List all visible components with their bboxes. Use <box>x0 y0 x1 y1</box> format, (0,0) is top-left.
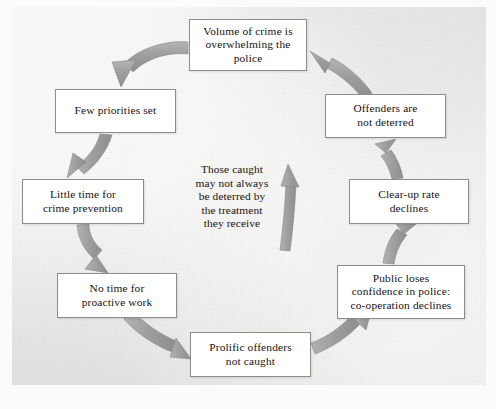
node-prolific-offenders-not-caught[interactable]: Prolific offenders not caught <box>190 332 311 377</box>
node-label: Little time for crime prevention <box>43 188 123 215</box>
node-few-priorities-set[interactable]: Few priorities set <box>55 89 176 133</box>
node-label: Offenders are not deterred <box>353 102 417 129</box>
arrow-little-time-to-no-time <box>77 224 108 273</box>
node-public-loses-confidence[interactable]: Public loses confidence in police: co-op… <box>337 265 465 319</box>
arrow-offenders-to-volume <box>310 51 372 99</box>
node-no-time-for-proactive-work[interactable]: No time for proactive work <box>57 273 177 318</box>
center-note-text: Those caught may not always be deterred … <box>184 163 280 231</box>
node-offenders-are-not-deterred[interactable]: Offenders are not deterred <box>325 94 446 138</box>
node-label: Prolific offenders not caught <box>209 341 292 368</box>
arrow-public-loses-to-clear-up <box>383 219 416 264</box>
figure-caption <box>14 392 434 407</box>
arrow-center-note-up <box>280 164 299 251</box>
node-label: Volume of crime is overwhelming the poli… <box>203 25 293 66</box>
diagram-page: Volume of crime is overwhelming the poli… <box>0 0 496 409</box>
node-clear-up-rate-declines[interactable]: Clear-up rate declines <box>349 179 469 224</box>
arrow-no-time-to-prolific <box>124 312 191 359</box>
node-label: Few priorities set <box>75 104 157 118</box>
node-label: Clear-up rate declines <box>378 188 440 215</box>
arrow-volume-to-few-priorities <box>112 42 188 87</box>
node-little-time-for-crime-prevention[interactable]: Little time for crime prevention <box>22 179 144 224</box>
node-label: No time for proactive work <box>82 282 153 309</box>
arrow-clear-up-to-offenders <box>375 139 403 179</box>
arrow-few-priorities-to-little-time <box>67 134 112 178</box>
node-label: Public loses confidence in police: co-op… <box>351 272 452 313</box>
node-volume-of-crime[interactable]: Volume of crime is overwhelming the poli… <box>189 19 307 71</box>
